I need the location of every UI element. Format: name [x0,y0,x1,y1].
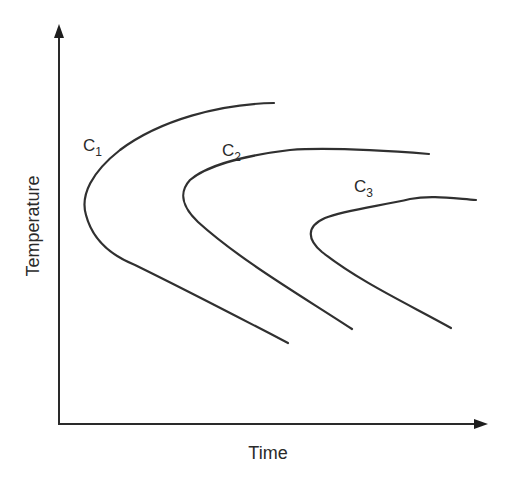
y-axis-title: Temperature [23,175,43,276]
label-c1: C1 [83,136,102,159]
x-axis [58,419,488,429]
curve-c1 [84,103,288,343]
y-axis-arrow-icon [54,24,64,38]
x-axis-title: Time [248,443,287,463]
label-c3: C3 [354,177,373,200]
curve-c2 [183,149,429,329]
curve-c3 [311,197,476,328]
y-axis [54,24,64,424]
x-axis-arrow-icon [474,419,488,429]
cct-diagram-chart: C1 C2 C3 Time Temperature [0,0,513,477]
